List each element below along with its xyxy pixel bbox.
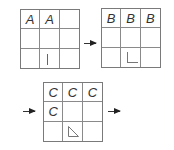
- grid-2-cell-5: [141, 28, 160, 47]
- grid-3-cell-1: C: [63, 83, 82, 102]
- grid-3-cell-0: C: [44, 83, 63, 102]
- grid-1-cell-8: [60, 49, 79, 68]
- grid-1-cell-4: [40, 29, 59, 48]
- grid-2: B B B: [101, 8, 161, 68]
- grid-3-cell-7: [63, 122, 82, 141]
- grid-2-cell-4: [121, 28, 140, 47]
- l-corner-icon: [127, 52, 138, 63]
- grid-1-cell-1: A: [40, 10, 59, 29]
- grid-1-cell-5: [60, 29, 79, 48]
- arrow-right-icon: [23, 111, 35, 112]
- grid-2-cell-6: [102, 48, 121, 67]
- grid-1-cell-3: [21, 29, 40, 48]
- grid-3-cell-2: C: [83, 83, 102, 102]
- grid-3-cell-6: [44, 122, 63, 141]
- grid-3-cell-4: [63, 102, 82, 121]
- vertical-bar-icon: [47, 54, 48, 65]
- grid-2-cell-0: B: [102, 9, 121, 28]
- right-triangle-icon: [68, 126, 79, 137]
- grid-3-cell-8: [83, 122, 102, 141]
- grid-3-cell-5: [83, 102, 102, 121]
- grid-2-cell-8: [141, 48, 160, 67]
- grid-2-cell-2: B: [141, 9, 160, 28]
- grid-1-cell-0: A: [21, 10, 40, 29]
- arrow-right-icon: [84, 43, 96, 44]
- grid-1-cell-7: [40, 49, 59, 68]
- grid-1-cell-2: [60, 10, 79, 29]
- grid-2-cell-1: B: [121, 9, 140, 28]
- grid-3: C C C C: [43, 82, 103, 142]
- grid-2-cell-7: [121, 48, 140, 67]
- arrow-right-icon: [108, 111, 120, 112]
- grid-2-cell-3: [102, 28, 121, 47]
- grid-1-cell-6: [21, 49, 40, 68]
- grid-3-cell-3: C: [44, 102, 63, 121]
- grid-1: A A: [20, 9, 80, 69]
